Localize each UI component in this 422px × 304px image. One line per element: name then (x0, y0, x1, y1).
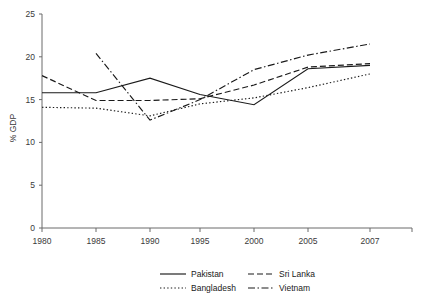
legend-label-sri-lanka: Sri Lanka (279, 269, 315, 279)
y-axis-title: % GDP (8, 114, 18, 143)
y-axis: 0510152025 (26, 9, 42, 233)
series-lines (42, 44, 370, 120)
y-tick-label: 25 (26, 9, 36, 19)
x-tick-label: 1995 (191, 236, 210, 246)
y-tick-label: 5 (30, 180, 35, 190)
series-line-sri-lanka (42, 64, 370, 101)
legend-label-vietnam: Vietnam (279, 283, 310, 293)
y-tick-label: 10 (26, 137, 36, 147)
y-tick-label: 20 (26, 52, 36, 62)
y-tick-label: 0 (30, 223, 35, 233)
chart-container: 0510152025 1980198519901995200020052007 … (0, 0, 422, 304)
x-axis: 1980198519901995200020052007 (33, 228, 412, 246)
x-tick-label: 2005 (299, 236, 318, 246)
x-tick-label: 1990 (141, 236, 160, 246)
x-tick-label: 1985 (87, 236, 106, 246)
x-tick-label: 2007 (361, 236, 380, 246)
chart-legend: PakistanSri LankaBangladeshVietnam (160, 269, 315, 293)
y-tick-label: 15 (26, 95, 36, 105)
legend-label-pakistan: Pakistan (191, 269, 224, 279)
x-tick-label: 2000 (245, 236, 264, 246)
legend-label-bangladesh: Bangladesh (191, 283, 236, 293)
line-chart: 0510152025 1980198519901995200020052007 … (0, 0, 422, 304)
series-line-bangladesh (42, 74, 370, 116)
x-tick-label: 1980 (33, 236, 52, 246)
